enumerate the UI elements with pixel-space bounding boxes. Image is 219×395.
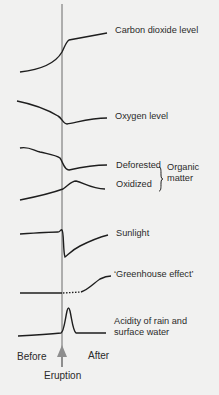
deforested-curve xyxy=(20,147,107,170)
oxidized-label: Oxidized xyxy=(116,179,152,190)
acidity-label-line2: surface water xyxy=(114,327,169,338)
organic-matter-label-line1: Organic xyxy=(167,162,199,173)
before-label: Before xyxy=(17,351,46,362)
organic-matter-label-line2: matter xyxy=(167,173,193,184)
eruption-arrow-icon xyxy=(57,345,67,357)
greenhouse-curve-after xyxy=(81,276,111,292)
after-label: After xyxy=(88,350,109,361)
sunlight-label: Sunlight xyxy=(116,228,149,239)
greenhouse-curve-uncertain xyxy=(63,292,81,293)
deforested-label: Deforested xyxy=(116,160,161,171)
eruption-label: Eruption xyxy=(44,370,81,381)
eruption-effects-diagram: Carbon dioxide level Oxygen level Defore… xyxy=(0,0,219,395)
co2-curve xyxy=(20,33,107,72)
acidity-label-line1: Acidity of rain and xyxy=(114,316,187,327)
greenhouse-label: ‘Greenhouse effect’ xyxy=(114,269,194,280)
sunlight-curve xyxy=(20,230,108,257)
diagram-graphics xyxy=(0,0,219,395)
co2-label: Carbon dioxide level xyxy=(115,25,198,36)
oxygen-label: Oxygen level xyxy=(115,111,168,122)
